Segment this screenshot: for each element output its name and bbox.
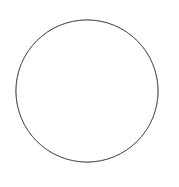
- plot-canvas: [0, 0, 179, 187]
- field-of-view-outline: [16, 20, 158, 162]
- circular-scatter-figure: [0, 0, 179, 187]
